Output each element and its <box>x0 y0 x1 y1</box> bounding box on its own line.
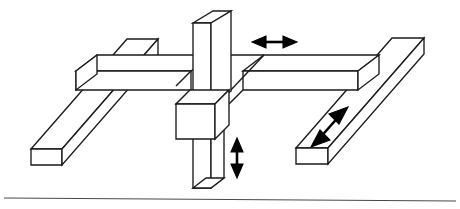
carriage-front-face <box>176 104 215 139</box>
cross-beam-right-segment <box>243 55 379 90</box>
cross-beam-right-front-face <box>243 71 358 90</box>
cross-beam-right-lower-edge <box>229 90 243 104</box>
cross-beam-right-top-face <box>243 55 379 71</box>
gantry-diagram-canvas <box>0 0 460 209</box>
left-rail-end-face <box>31 149 62 165</box>
ground-reference-line <box>4 198 456 201</box>
vertical-travel-arrow <box>231 138 243 178</box>
vertical-arrow-head-down <box>231 164 243 178</box>
column-side-face-upper <box>211 11 231 103</box>
horizontal-arrow-head-left <box>252 36 266 48</box>
right-rail-end-face <box>296 148 328 164</box>
horizontal-arrow-head-right <box>283 36 297 48</box>
horizontal-travel-arrow <box>252 36 297 48</box>
vertical-arrow-head-up <box>231 138 243 152</box>
cross-beam-left-segment <box>76 55 212 90</box>
gantry-diagram-figure: Three-Axis Gantry Motion Diagram Isometr… <box>0 0 460 209</box>
carriage-block <box>176 90 229 139</box>
